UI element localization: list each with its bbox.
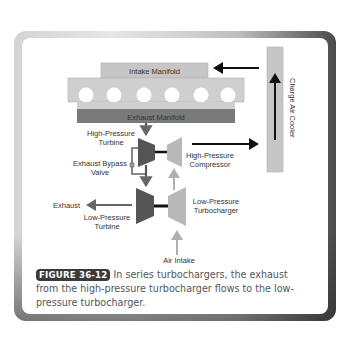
cylinder-3 [137, 88, 152, 103]
bypass-valve-label-1: Exhaust Bypass [73, 159, 127, 168]
charge-air-cooler: Charge Air Cooler [267, 47, 297, 172]
exhaust-manifold-label: Exhaust Manifold [127, 113, 185, 122]
hp-compressor-label-1: High-Pressure [186, 151, 234, 160]
exhaust-manifold: Exhaust Manifold [77, 102, 235, 123]
intake-manifold: Intake Manifold [101, 63, 208, 78]
cylinder-4 [165, 88, 180, 103]
air-intake-label: Air Intake [163, 256, 195, 265]
cylinder-2 [107, 88, 122, 103]
lp-turbocharger-label-2: Turbocharger [194, 206, 239, 215]
hp-turbine [138, 138, 155, 167]
lp-turbine-label-2: Turbine [94, 222, 119, 231]
lp-compressor [168, 187, 186, 226]
hp-compressor [167, 137, 182, 167]
cylinder-6 [221, 88, 236, 103]
exhaust-label: Exhaust [53, 201, 81, 210]
charge-air-cooler-label: Charge Air Cooler [288, 78, 297, 138]
cylinder-5 [194, 88, 209, 103]
figure-caption: FIGURE 36-12In series turbochargers, the… [36, 268, 306, 310]
bypass-valve [130, 163, 134, 167]
hp-turbine-label-2: Turbine [98, 138, 123, 147]
lp-turbocharger-label-1: Low-Pressure [193, 197, 239, 206]
hp-compressor-label-2: Compressor [190, 160, 231, 169]
hp-turbine-label-1: High-Pressure [87, 129, 135, 138]
bypass-valve-label-2: Valve [91, 168, 109, 177]
lp-turbine-label-1: Low-Pressure [84, 213, 130, 222]
engine-block [68, 78, 244, 103]
intake-manifold-label: Intake Manifold [129, 67, 180, 76]
figure-badge: FIGURE 36-12 [36, 269, 110, 281]
lp-turbine [136, 188, 154, 224]
cylinder-1 [79, 88, 94, 103]
